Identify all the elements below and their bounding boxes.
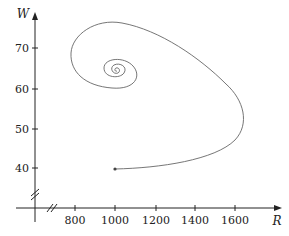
y-tick-label: 50 bbox=[15, 123, 29, 136]
y-axis-arrow-icon bbox=[32, 12, 38, 20]
start-point-marker bbox=[113, 167, 116, 170]
y-tick-label: 70 bbox=[15, 42, 29, 55]
x-axis-arrow-icon bbox=[274, 205, 282, 211]
phase-plot: 70 60 50 40 800 1000 1200 1400 1600 W R bbox=[0, 0, 289, 236]
y-tick-label: 60 bbox=[15, 83, 29, 96]
x-tick-label: 1600 bbox=[221, 214, 249, 227]
x-tick-label: 1400 bbox=[181, 214, 209, 227]
x-tick-label: 800 bbox=[65, 214, 86, 227]
x-axis-label: R bbox=[271, 214, 281, 228]
trajectory-curve bbox=[71, 22, 244, 169]
x-tick-label: 1000 bbox=[101, 214, 129, 227]
y-axis-label: W bbox=[17, 7, 31, 21]
y-tick-label: 40 bbox=[15, 162, 29, 175]
x-tick-label: 1200 bbox=[142, 214, 170, 227]
